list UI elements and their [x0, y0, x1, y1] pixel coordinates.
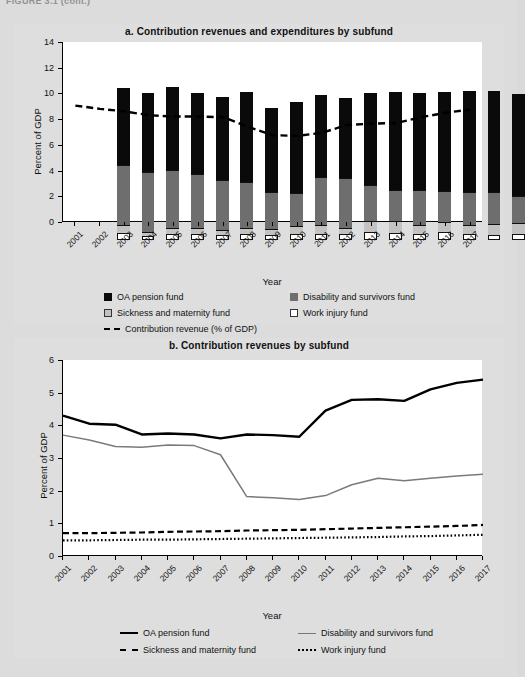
panel-b-y-tick-label: 2 — [32, 486, 54, 496]
panel-a-plot-area — [62, 42, 482, 222]
panel-b-x-tick — [115, 556, 116, 560]
panel-b-x-tick-label: 2005 — [148, 563, 178, 593]
panel-b-x-tick — [325, 556, 326, 560]
panel-a-x-tick — [321, 222, 322, 226]
panel-b-x-tick-label: 2007 — [201, 563, 231, 593]
panel-b-x-tick — [272, 556, 273, 560]
panel-a-bar-segment-work-injury-fund — [512, 234, 525, 240]
panel-a-y-tick-label: 4 — [30, 166, 54, 176]
legend-item-contribution-revenue: Contribution revenue (% of GDP) — [104, 324, 257, 334]
panel-b-x-tick-label: 2002 — [70, 563, 100, 593]
panel-b-y-tick — [58, 458, 62, 459]
panel-b-x-tick-label: 2008 — [227, 563, 257, 593]
panel-b-x-tick-label: 2006 — [175, 563, 205, 593]
panel-b-x-tick — [193, 556, 194, 560]
panel-a-x-tick — [272, 222, 273, 226]
panel-b-x-tick-label: 2004 — [122, 563, 152, 593]
legend-label-disability: Disability and survivors fund — [303, 292, 415, 302]
panel-b-x-tick — [141, 556, 142, 560]
panel-b-x-tick-label: 2010 — [280, 563, 310, 593]
panel-a-x-tick — [297, 222, 298, 226]
panel-a-x-tick — [445, 222, 446, 226]
panel-b-line-sickness-and-maternity-fund — [63, 525, 483, 533]
panel-a-y-tick-label: 2 — [30, 191, 54, 201]
panel-a-x-tick — [124, 222, 125, 226]
panel-b-x-tick — [298, 556, 299, 560]
legend-label-oa-pension: OA pension fund — [117, 292, 184, 302]
panel-b-y-tick-label: 1 — [32, 518, 54, 528]
panel-b-x-tick-label: 2001 — [43, 563, 73, 593]
panel-b-y-tick — [58, 393, 62, 394]
panel-a-y-tick-label: 10 — [30, 88, 54, 98]
panel-b-x-tick-label: 2014 — [385, 563, 415, 593]
panel-b-x-tick-label: 2017 — [463, 563, 493, 593]
legend-item-oa-pension-fund: OA pension fund — [104, 292, 184, 302]
panel-b-y-tick-label: 0 — [32, 551, 54, 561]
panel-a-y-tick — [58, 196, 62, 197]
swatch-sickness-icon — [104, 309, 112, 317]
swatch-oa-pension-icon — [104, 293, 112, 301]
swatch-work-injury-icon — [290, 309, 298, 317]
panel-a-bar-segment-disability-and-survivors-fund — [488, 192, 501, 224]
panel-b-x-tick-label: 2016 — [437, 563, 467, 593]
panel-b-x-tick-label: 2012 — [332, 563, 362, 593]
panel-a-x-tick — [396, 222, 397, 226]
swatch-b-disability-line-icon — [298, 633, 316, 634]
legend-label-b-sickness: Sickness and maternity fund — [143, 645, 256, 655]
legend-item-sickness-maternity-fund: Sickness and maternity fund — [104, 308, 230, 318]
panel-a-y-tick — [58, 171, 62, 172]
panel-a-x-tick — [346, 222, 347, 226]
legend-item-work-injury-fund: Work injury fund — [290, 308, 368, 318]
panel-b-legend: OA pension fund Disability and survivors… — [62, 628, 482, 668]
panel-a-y-tick-label: 12 — [30, 63, 54, 73]
swatch-b-sickness-dashed-icon — [120, 649, 138, 651]
panel-a-y-tick — [58, 42, 62, 43]
panel-a-x-tick — [198, 222, 199, 226]
panel-a-y-tick-label: 14 — [30, 37, 54, 47]
panel-a-y-tick — [58, 119, 62, 120]
panel-a-bar-segment-sickness-and-maternity-fund — [512, 223, 525, 235]
panel-a-bar-segment-oa-pension-fund — [512, 94, 525, 196]
panel-a-x-tick — [420, 222, 421, 226]
panel-a-bar-segment-work-injury-fund — [488, 235, 501, 240]
legend-item-b-oa-pension-fund: OA pension fund — [120, 628, 210, 638]
panel-b-contribution-revenues-by-subfund: b. Contribution revenues by subfund Perc… — [14, 338, 504, 658]
panel-a-x-tick-label: 2002 — [80, 229, 110, 259]
panel-b-x-tick — [220, 556, 221, 560]
legend-item-disability-survivors-fund: Disability and survivors fund — [290, 292, 415, 302]
panel-b-x-tick — [430, 556, 431, 560]
panel-a-x-tick — [148, 222, 149, 226]
legend-label-b-oa-pension: OA pension fund — [143, 628, 210, 638]
swatch-b-oa-pension-line-icon — [120, 632, 138, 634]
panel-b-x-tick — [62, 556, 63, 560]
panel-b-x-tick-label: 2015 — [411, 563, 441, 593]
panel-b-x-tick-label: 2009 — [253, 563, 283, 593]
panel-a-contribution-revenue-line — [63, 42, 483, 222]
panel-b-x-tick-label: 2011 — [306, 563, 336, 593]
panel-a-legend: OA pension fund Disability and survivors… — [62, 292, 482, 342]
legend-item-b-work-injury-fund: Work injury fund — [298, 645, 386, 655]
panel-b-x-tick — [167, 556, 168, 560]
panel-b-x-tick — [88, 556, 89, 560]
panel-b-y-tick — [58, 425, 62, 426]
panel-b-x-axis-title: Year — [62, 610, 482, 621]
legend-label-b-disability: Disability and survivors fund — [321, 628, 433, 638]
swatch-disability-icon — [290, 293, 298, 301]
panel-a-y-tick — [58, 145, 62, 146]
swatch-contribution-revenue-dashed-icon — [104, 328, 120, 330]
panel-b-title: b. Contribution revenues by subfund — [14, 340, 504, 351]
panel-a-x-tick — [99, 222, 100, 226]
legend-label-work-injury: Work injury fund — [303, 308, 368, 318]
panel-b-line-work-injury-fund — [63, 535, 483, 541]
panel-b-line-oa-pension-fund — [63, 380, 483, 439]
panel-a-x-tick — [223, 222, 224, 226]
figure-caption: FIGURE 3.1 (cont.) — [6, 0, 90, 6]
panel-b-y-tick — [58, 523, 62, 524]
panel-a-y-tick-label: 8 — [30, 114, 54, 124]
panel-a-x-axis-title: Year — [62, 276, 482, 287]
panel-b-y-tick-label: 3 — [32, 453, 54, 463]
panel-b-x-tick — [377, 556, 378, 560]
panel-a-y-tick-label: 6 — [30, 140, 54, 150]
legend-label-b-work-injury: Work injury fund — [321, 645, 386, 655]
panel-b-y-tick-label: 5 — [32, 388, 54, 398]
